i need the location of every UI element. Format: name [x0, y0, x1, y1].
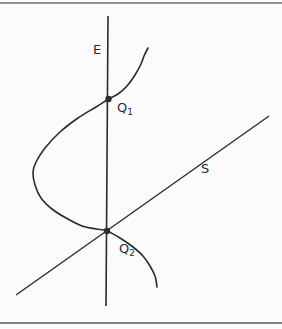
diagonal-s-line: [16, 116, 269, 295]
vertical-axis-line: [106, 16, 108, 306]
label-q1: Q1: [117, 100, 133, 117]
point-q1-dot: [105, 96, 111, 102]
s-curve: [33, 48, 157, 287]
label-e: E: [93, 42, 101, 57]
figure-canvas: E S Q1 Q2: [0, 0, 282, 329]
label-q2-base: Q: [119, 241, 129, 256]
label-q2-subscript: 2: [129, 248, 135, 258]
label-q1-base: Q: [117, 100, 127, 115]
label-s: S: [201, 161, 209, 176]
label-q1-subscript: 1: [127, 107, 133, 117]
figure: E S Q1 Q2: [0, 0, 282, 329]
label-q2: Q2: [119, 241, 135, 258]
point-q2-dot: [104, 228, 110, 234]
